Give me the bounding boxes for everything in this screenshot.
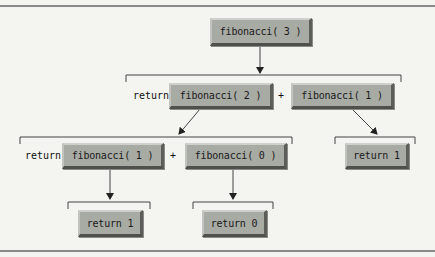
node-return-0-bottom: return 0 xyxy=(202,210,267,237)
node-fibonacci-1-bottom: fibonacci( 1 ) xyxy=(62,143,164,169)
node-return-1-right: return 1 xyxy=(345,143,409,169)
node-return-1-bottom: return 1 xyxy=(78,210,143,237)
plus-label-row3: + xyxy=(170,150,176,161)
node-fibonacci-0: fibonacci( 0 ) xyxy=(185,143,287,169)
node-fibonacci-1-top: fibonacci( 1 ) xyxy=(291,83,394,109)
return-label-row2: return xyxy=(133,90,169,101)
node-fibonacci-3: fibonacci( 3 ) xyxy=(210,18,312,46)
plus-label-row2: + xyxy=(278,90,284,101)
node-fibonacci-2: fibonacci( 2 ) xyxy=(169,83,273,109)
return-label-row3: return xyxy=(25,150,61,161)
